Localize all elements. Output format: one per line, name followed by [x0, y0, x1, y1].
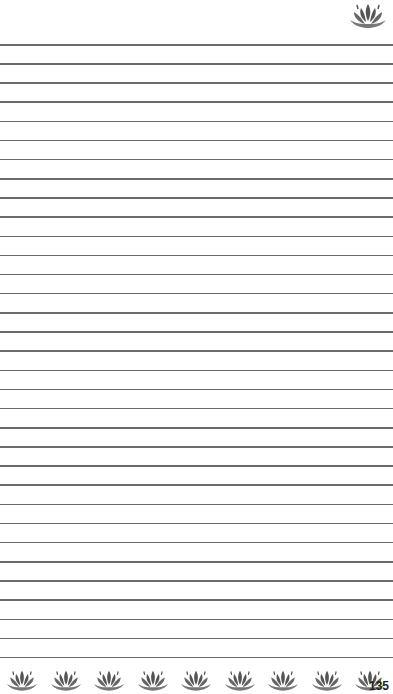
lotus-icon	[4, 669, 40, 694]
lotus-icon	[222, 669, 258, 694]
ruled-line	[0, 484, 393, 486]
ruled-line	[0, 197, 393, 199]
ruled-line	[0, 599, 393, 601]
ruled-line	[0, 504, 393, 506]
lotus-icon	[48, 669, 84, 694]
ruled-line	[0, 331, 393, 333]
ruled-line	[0, 350, 393, 352]
ruled-line	[0, 657, 393, 659]
ruled-line	[0, 274, 393, 276]
ruled-line	[0, 580, 393, 582]
ruled-line	[0, 140, 393, 142]
ruled-line	[0, 236, 393, 238]
ruled-line	[0, 159, 393, 161]
ruled-line	[0, 542, 393, 544]
lotus-icon	[178, 669, 214, 694]
ruled-line	[0, 216, 393, 218]
page-number: 135	[364, 679, 393, 693]
ruled-line	[0, 121, 393, 123]
ruled-line	[0, 561, 393, 563]
ruled-line	[0, 446, 393, 448]
ruled-line	[0, 619, 393, 621]
ruled-line	[0, 293, 393, 295]
ruled-line	[0, 255, 393, 257]
ruled-line	[0, 178, 393, 180]
ruled-line	[0, 408, 393, 410]
ruled-line	[0, 427, 393, 429]
footer-decoration	[0, 669, 393, 694]
lotus-icon	[91, 669, 127, 694]
lotus-icon	[265, 669, 301, 694]
ruled-lines	[0, 0, 393, 694]
ruled-line	[0, 44, 393, 46]
ruled-line	[0, 389, 393, 391]
lotus-icon	[309, 669, 345, 694]
ruled-line	[0, 465, 393, 467]
ruled-line	[0, 63, 393, 65]
ruled-line	[0, 370, 393, 372]
ruled-line	[0, 312, 393, 314]
ruled-line	[0, 523, 393, 525]
ruled-line	[0, 101, 393, 103]
lotus-icon	[135, 669, 171, 694]
ruled-line	[0, 638, 393, 640]
ruled-line	[0, 82, 393, 84]
